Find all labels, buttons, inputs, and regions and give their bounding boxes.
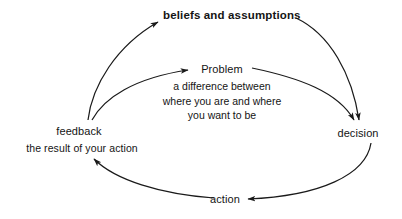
decision-loop-diagram: beliefs and assumptions Problem a differ… [0, 0, 402, 219]
node-problem-description: a difference between where you are and w… [163, 79, 282, 123]
edge-beliefs-to-decision [296, 18, 359, 120]
problem-description-line-1: a difference between [163, 79, 282, 94]
edge-decision-to-action [248, 143, 371, 199]
problem-description-line-2: where you are and where [163, 94, 282, 109]
node-feedback-description: the result of your action [26, 143, 138, 154]
edge-action-to-feedback [94, 159, 214, 198]
problem-description-line-3: you want to be [163, 108, 282, 123]
edge-feedback-to-beliefs [88, 22, 158, 120]
node-problem-title: Problem [201, 64, 243, 76]
node-decision: decision [337, 128, 378, 140]
node-beliefs-and-assumptions: beliefs and assumptions [163, 9, 301, 21]
node-feedback: feedback [56, 126, 101, 138]
node-action: action [210, 194, 240, 206]
